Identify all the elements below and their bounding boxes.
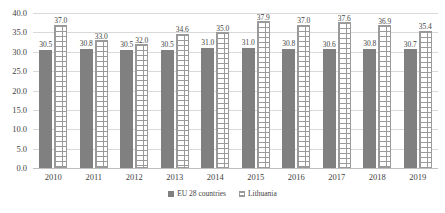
bar-eu-28-countries: 31.0 xyxy=(242,48,255,168)
bar-value-label: 30.8 xyxy=(282,40,295,48)
bar-value-label: 35.4 xyxy=(419,23,432,31)
x-axis-tick-label: 2015 xyxy=(236,170,277,186)
bar-value-label: 31.0 xyxy=(201,39,214,47)
bar-value-label: 30.5 xyxy=(161,41,174,49)
y-axis-tick-label: 25.0 xyxy=(0,67,27,76)
bar-value-label: 37.6 xyxy=(338,15,351,23)
bar-lithuania: 37.9 xyxy=(257,21,270,168)
y-axis-tick-label: 15.0 xyxy=(0,106,27,115)
bar-eu-28-countries: 30.8 xyxy=(363,49,376,168)
bar-lithuania: 37.6 xyxy=(338,22,351,168)
x-axis-tick-label: 2019 xyxy=(398,170,439,186)
bar-value-label: 34.6 xyxy=(176,26,189,34)
x-axis-tick-label: 2018 xyxy=(357,170,398,186)
y-axis-tick-label: 30.0 xyxy=(0,48,27,57)
bar-value-label: 32.0 xyxy=(135,37,148,45)
bar-value-label: 36.9 xyxy=(378,18,391,26)
bar-group: 30.833.0 xyxy=(74,13,115,168)
bar-group: 30.532.0 xyxy=(114,13,155,168)
bar-chart: 40.035.030.025.020.015.010.05.00.0 30.53… xyxy=(0,0,445,213)
legend-swatch-eu-28-countries xyxy=(168,191,174,197)
bar-eu-28-countries: 30.5 xyxy=(161,50,174,168)
bar-group: 30.534.6 xyxy=(155,13,196,168)
bar-lithuania: 37.0 xyxy=(54,25,67,168)
legend-item[interactable]: EU 28 countries xyxy=(168,190,226,198)
y-axis-tick-label: 0.0 xyxy=(0,164,27,173)
bar-group: 30.836.9 xyxy=(357,13,398,168)
bar-group: 30.735.4 xyxy=(398,13,439,168)
y-axis-tick-label: 20.0 xyxy=(0,86,27,95)
y-axis-tick-label: 40.0 xyxy=(0,9,27,18)
bar-value-label: 30.6 xyxy=(323,41,336,49)
bar-lithuania: 33.0 xyxy=(95,40,108,168)
bar-group: 30.537.0 xyxy=(33,13,74,168)
legend-label: Lithuania xyxy=(248,190,277,198)
bar-group: 30.837.0 xyxy=(276,13,317,168)
bar-lithuania: 35.4 xyxy=(419,31,432,168)
bar-group: 31.037.9 xyxy=(236,13,277,168)
bar-value-label: 35.0 xyxy=(216,25,229,33)
bar-group: 30.637.6 xyxy=(317,13,358,168)
bar-lithuania: 37.0 xyxy=(297,25,310,168)
bar-value-label: 37.9 xyxy=(257,14,270,22)
bar-eu-28-countries: 30.8 xyxy=(80,49,93,168)
x-axis-tick-label: 2011 xyxy=(74,170,115,186)
bar-lithuania: 32.0 xyxy=(135,44,148,168)
bar-value-label: 37.0 xyxy=(297,17,310,25)
bar-eu-28-countries: 30.8 xyxy=(282,49,295,168)
x-axis-tick-label: 2014 xyxy=(195,170,236,186)
x-axis: 2010201120122013201420152016201720182019 xyxy=(33,170,438,186)
bar-value-label: 30.7 xyxy=(404,41,417,49)
gridline xyxy=(33,168,438,169)
bar-eu-28-countries: 30.5 xyxy=(120,50,133,168)
chart-legend: EU 28 countriesLithuania xyxy=(0,190,445,198)
x-axis-tick-label: 2013 xyxy=(155,170,196,186)
legend-item[interactable]: Lithuania xyxy=(239,190,277,198)
bar-value-label: 30.8 xyxy=(363,40,376,48)
y-axis-tick-label: 5.0 xyxy=(0,144,27,153)
bar-eu-28-countries: 30.6 xyxy=(323,49,336,168)
bar-eu-28-countries: 31.0 xyxy=(201,48,214,168)
x-axis-tick-label: 2017 xyxy=(317,170,358,186)
bar-eu-28-countries: 30.7 xyxy=(404,49,417,168)
bar-value-label: 30.5 xyxy=(120,41,133,49)
y-axis-tick-label: 10.0 xyxy=(0,125,27,134)
bar-value-label: 30.5 xyxy=(39,41,52,49)
plot-area: 30.537.030.833.030.532.030.534.631.035.0… xyxy=(33,13,438,168)
bar-value-label: 33.0 xyxy=(95,33,108,41)
bar-value-label: 30.8 xyxy=(80,40,93,48)
bar-value-label: 37.0 xyxy=(54,17,67,25)
bar-eu-28-countries: 30.5 xyxy=(39,50,52,168)
x-axis-tick-label: 2010 xyxy=(33,170,74,186)
bar-value-label: 31.0 xyxy=(242,39,255,47)
x-axis-tick-label: 2012 xyxy=(114,170,155,186)
y-axis: 40.035.030.025.020.015.010.05.00.0 xyxy=(0,0,31,181)
legend-label: EU 28 countries xyxy=(177,190,226,198)
legend-swatch-lithuania xyxy=(239,191,245,197)
bar-groups: 30.537.030.833.030.532.030.534.631.035.0… xyxy=(33,13,438,168)
bar-lithuania: 35.0 xyxy=(216,32,229,168)
x-axis-tick-label: 2016 xyxy=(276,170,317,186)
bar-lithuania: 36.9 xyxy=(378,25,391,168)
bar-lithuania: 34.6 xyxy=(176,34,189,168)
bar-group: 31.035.0 xyxy=(195,13,236,168)
y-axis-tick-label: 35.0 xyxy=(0,28,27,37)
